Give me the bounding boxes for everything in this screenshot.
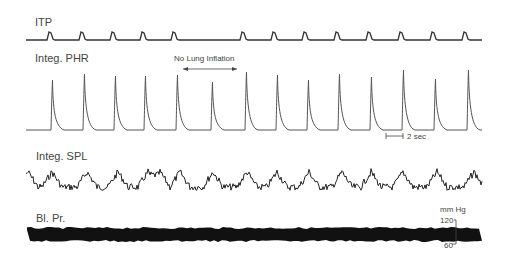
phr-trace (26, 70, 482, 130)
bp-band (27, 227, 482, 242)
chart-plot (0, 0, 510, 262)
spl-trace (26, 169, 482, 191)
itp-trace (26, 32, 482, 40)
time-scale-bar (386, 133, 403, 139)
